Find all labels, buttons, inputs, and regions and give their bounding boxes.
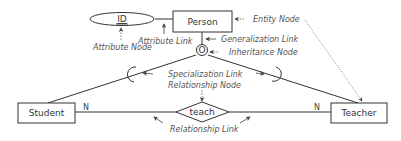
label-inheritance-node: Inheritance Node — [229, 48, 298, 57]
inheritance-node[interactable]: O — [197, 45, 208, 56]
inheritance-symbol: O — [198, 45, 205, 55]
label-entity-node: Entity Node — [253, 15, 300, 24]
specialization-link-student — [48, 55, 196, 103]
entity-node-student[interactable]: Student — [18, 103, 75, 123]
label-generalization-link: Generalization Link — [221, 35, 298, 44]
relationship-link-left-pointer-icon — [154, 117, 163, 123]
attribute-node-id[interactable]: ID — [90, 13, 154, 26]
cardinality-student: N — [83, 103, 89, 112]
label-relationship-link: Relationship Link — [170, 125, 239, 134]
label-specialization-link: Specialization Link — [168, 70, 243, 79]
entity-node-person[interactable]: Person — [173, 11, 232, 32]
label-attribute-node: Attribute Node — [92, 43, 152, 52]
relationship-link-right-pointer-icon — [240, 117, 250, 123]
label-relationship-node: Relationship Node — [168, 81, 241, 90]
specialization-link-right-pointer-icon — [256, 73, 264, 74]
entity-label-student: Student — [29, 108, 65, 118]
relationship-label-teach: teach — [189, 107, 214, 117]
cardinality-teacher: N — [314, 103, 320, 112]
attribute-label-id: ID — [117, 14, 127, 24]
entity-label-teacher: Teacher — [341, 108, 377, 118]
entity-node-teacher[interactable]: Teacher — [331, 103, 387, 123]
specialization-link-teacher — [208, 55, 358, 103]
subset-arc-teacher — [272, 67, 281, 81]
er-diagram: ID Person O Student Teacher teach N N En… — [0, 0, 401, 141]
relationship-node-teach[interactable]: teach — [176, 102, 229, 122]
entity-label-person: Person — [187, 17, 217, 27]
specialization-link-left-pointer-icon — [143, 73, 153, 74]
